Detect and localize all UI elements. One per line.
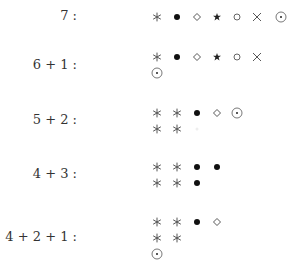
asterisk-icon [150,215,164,229]
filled-circle-icon [190,106,204,120]
filled-circle-icon [170,50,184,64]
diamond-icon [210,215,224,229]
asterisk-icon [150,50,164,64]
times-icon [250,50,264,64]
asterisk-icon [170,215,184,229]
filled-circle-icon [210,160,224,174]
asterisk-icon [150,160,164,174]
times-icon [250,10,264,24]
star-icon [210,10,224,24]
partition-label: 5 + 2 : [33,113,77,127]
asterisk-icon [170,122,184,136]
asterisk-icon [170,231,184,245]
asterisk-icon [150,122,164,136]
asterisk-icon [150,106,164,120]
asterisk-icon [170,106,184,120]
asterisk-icon [170,176,184,190]
circled-dot-icon [230,106,244,120]
asterisk-icon [170,160,184,174]
circled-dot-icon [274,10,288,24]
filled-circle-icon [190,160,204,174]
star-icon [210,50,224,64]
circled-dot-icon [150,66,164,80]
open-circle-icon [230,50,244,64]
partition-label: 6 + 1 : [33,58,77,72]
partition-label: 4 + 2 + 1 : [5,230,77,244]
filled-circle-icon [170,10,184,24]
asterisk-icon [150,231,164,245]
partition-label: 4 + 3 : [33,167,77,181]
faint-dot-icon [190,122,204,136]
diamond-icon [190,50,204,64]
circled-dot-icon [150,247,164,261]
open-circle-icon [230,10,244,24]
filled-circle-icon [190,215,204,229]
diamond-icon [190,10,204,24]
asterisk-icon [150,176,164,190]
partition-label: 7 : [60,9,77,23]
diamond-icon [210,106,224,120]
filled-circle-icon [190,176,204,190]
asterisk-icon [150,10,164,24]
